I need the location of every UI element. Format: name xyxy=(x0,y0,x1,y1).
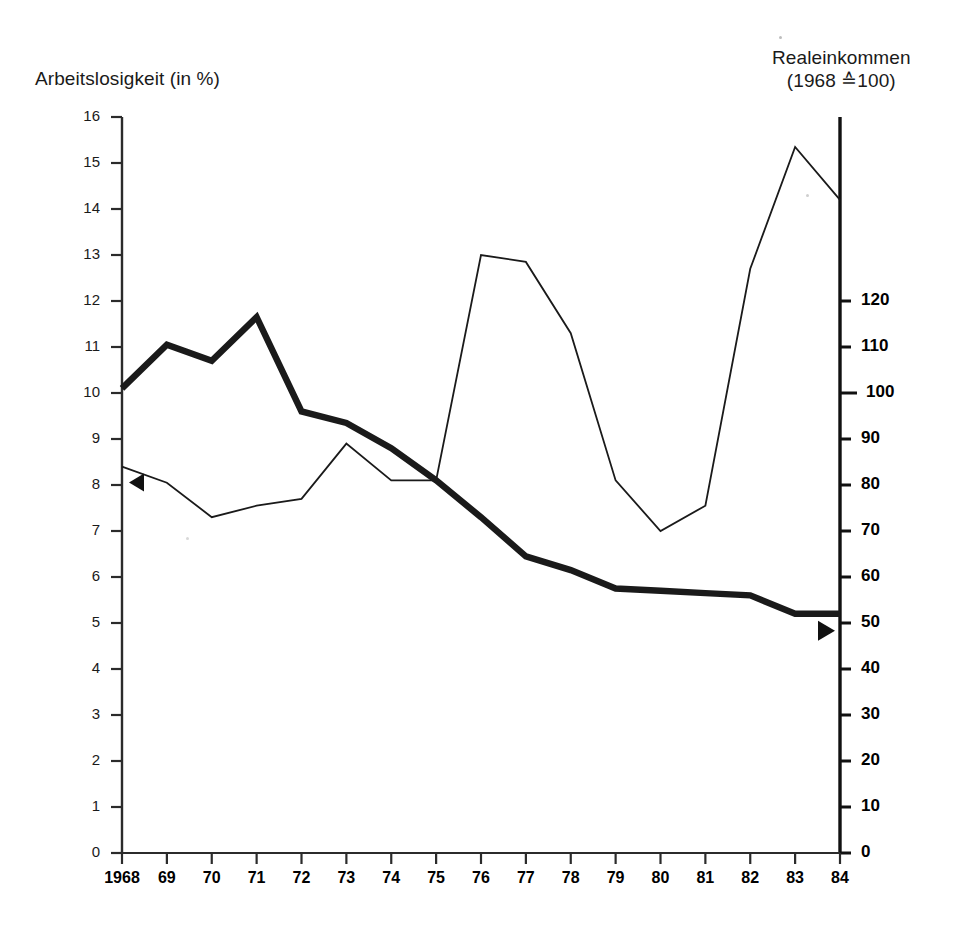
right-tick-label-50: 50 xyxy=(861,612,907,632)
speck-artifact-1 xyxy=(779,36,782,39)
left-tick-label-16: 16 xyxy=(66,107,100,124)
x-tick-label-84: 84 xyxy=(810,869,870,887)
right-tick-label-80: 80 xyxy=(861,474,907,494)
speck-artifact-2 xyxy=(186,537,189,540)
left-tick-label-1: 1 xyxy=(66,797,100,814)
right-tick-label-70: 70 xyxy=(861,520,907,540)
left-tick-label-14: 14 xyxy=(66,199,100,216)
left-tick-label-8: 8 xyxy=(66,475,100,492)
right-tick-label-20: 20 xyxy=(861,750,907,770)
series-end-markers xyxy=(129,474,835,641)
left-tick-label-9: 9 xyxy=(66,429,100,446)
right-tick-label-60: 60 xyxy=(861,566,907,586)
left-tick-label-11: 11 xyxy=(66,337,100,354)
left-tick-label-10: 10 xyxy=(66,383,100,400)
left-tick-label-2: 2 xyxy=(66,751,100,768)
chart-figure: Arbeitslosigkeit (in %) Realeinkommen (1… xyxy=(0,0,968,935)
right-tick-label-100: 100 xyxy=(866,382,912,402)
right-tick-label-110: 110 xyxy=(861,336,907,356)
right-tick-label-0: 0 xyxy=(861,842,907,862)
right-tick-label-30: 30 xyxy=(861,704,907,724)
right-tick-label-10: 10 xyxy=(861,796,907,816)
left-tick-label-5: 5 xyxy=(66,613,100,630)
left-tick-label-0: 0 xyxy=(66,843,100,860)
left-tick-label-6: 6 xyxy=(66,567,100,584)
right-tick-label-90: 90 xyxy=(861,428,907,448)
left-tick-label-15: 15 xyxy=(66,153,100,170)
speck-artifact-3 xyxy=(806,194,809,197)
left-tick-label-12: 12 xyxy=(66,291,100,308)
left-tick-label-3: 3 xyxy=(66,705,100,722)
right-tick-label-120: 120 xyxy=(861,290,907,310)
plot-area xyxy=(0,0,968,935)
left-tick-label-13: 13 xyxy=(66,245,100,262)
left-tick-label-7: 7 xyxy=(66,521,100,538)
right-tick-label-40: 40 xyxy=(861,658,907,678)
axes xyxy=(111,117,857,864)
left-tick-label-4: 4 xyxy=(66,659,100,676)
